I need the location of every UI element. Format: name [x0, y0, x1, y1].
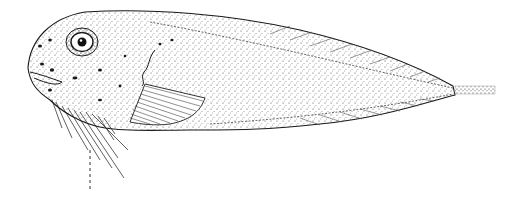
fish-illustration	[0, 0, 521, 205]
fish-body	[28, 11, 455, 131]
caudal-filament	[455, 86, 495, 94]
eye	[66, 28, 98, 56]
